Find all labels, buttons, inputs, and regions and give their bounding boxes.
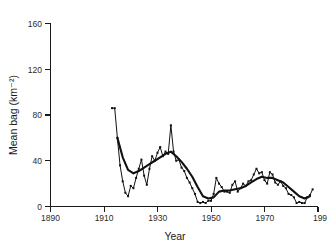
data-point-marker <box>205 202 207 204</box>
data-point-marker <box>282 185 284 187</box>
data-point-marker <box>165 151 167 153</box>
data-point-marker <box>301 202 303 204</box>
series-smoothed-trend <box>117 138 310 199</box>
data-point-marker <box>237 191 239 193</box>
data-point-marker <box>266 183 268 185</box>
data-point-marker <box>159 146 161 148</box>
data-point-marker <box>189 181 191 183</box>
data-point-marker <box>146 184 148 186</box>
data-point-marker <box>114 107 116 109</box>
data-point-marker <box>218 183 220 185</box>
data-point-marker <box>207 200 209 202</box>
data-point-marker <box>304 202 306 204</box>
data-point-marker <box>199 202 201 204</box>
data-point-marker <box>143 175 145 177</box>
y-tick-label-0: 0 <box>37 202 42 212</box>
data-point-marker <box>151 155 153 157</box>
data-point-marker <box>202 201 204 203</box>
data-point-marker <box>122 180 124 182</box>
x-tick-label-1950: 1950 <box>202 213 221 223</box>
y-axis-title: Mean bag (km⁻²) <box>7 75 19 155</box>
data-point-marker <box>127 195 129 197</box>
data-point-marker <box>135 177 137 179</box>
x-axis-title: Year <box>164 230 186 242</box>
x-tick-label-1970: 1970 <box>255 213 274 223</box>
data-point-marker <box>119 164 121 166</box>
data-point-marker <box>234 180 236 182</box>
data-point-marker <box>183 170 185 172</box>
data-point-marker <box>132 187 134 189</box>
y-tick-label-160: 160 <box>28 19 42 29</box>
data-point-marker <box>194 193 196 195</box>
data-point-marker <box>148 168 150 170</box>
data-point-marker <box>191 187 193 189</box>
x-axis-ticks <box>51 207 319 213</box>
x-tick-label-1910: 1910 <box>95 213 114 223</box>
data-point-marker <box>277 184 279 186</box>
chart-plot-area: 160 120 80 40 0 1890 1910 1930 1950 1970… <box>0 0 330 248</box>
data-point-marker <box>298 201 300 203</box>
data-point-marker <box>210 200 212 202</box>
data-point-marker <box>231 184 233 186</box>
y-tick-label-120: 120 <box>28 65 42 75</box>
data-point-marker <box>140 159 142 161</box>
data-point-marker <box>272 173 274 175</box>
data-point-marker <box>258 172 260 174</box>
annual-data-line <box>112 108 313 203</box>
data-point-marker <box>215 177 217 179</box>
data-point-marker <box>288 193 290 195</box>
data-point-marker <box>242 183 244 185</box>
data-point-marker <box>293 196 295 198</box>
data-point-marker <box>247 180 249 182</box>
data-point-marker <box>130 185 132 187</box>
data-point-marker <box>111 107 113 109</box>
data-point-marker <box>274 181 276 183</box>
data-point-marker <box>170 124 172 126</box>
data-point-marker <box>186 177 188 179</box>
data-point-marker <box>221 186 223 188</box>
data-point-marker <box>285 187 287 189</box>
data-point-marker <box>296 202 298 204</box>
data-point-marker <box>197 201 199 203</box>
data-point-marker <box>229 192 231 194</box>
data-point-marker <box>312 188 314 190</box>
x-axis-tick-labels: 1890 1910 1930 1950 1970 199 <box>41 213 327 223</box>
data-point-marker <box>213 193 215 195</box>
y-axis-tick-labels: 160 120 80 40 0 <box>28 19 42 212</box>
data-series-layer <box>111 107 314 204</box>
x-tick-label-1930: 1930 <box>148 213 167 223</box>
data-point-marker <box>157 152 159 154</box>
data-point-marker <box>124 192 126 194</box>
data-point-marker <box>175 160 177 162</box>
y-axis-ticks <box>45 24 51 207</box>
data-point-marker <box>255 168 257 170</box>
data-point-marker <box>269 171 271 173</box>
y-tick-label-80: 80 <box>33 110 43 120</box>
series-annual-mean-bag <box>111 107 314 204</box>
x-tick-label-1990: 199 <box>313 213 327 223</box>
x-tick-label-1890: 1890 <box>41 213 60 223</box>
data-point-marker <box>253 173 255 175</box>
smoothed-trend-line <box>117 138 310 199</box>
data-point-marker <box>264 179 266 181</box>
data-point-marker <box>290 194 292 196</box>
chart-figure: 160 120 80 40 0 1890 1910 1930 1950 1970… <box>0 0 330 248</box>
y-tick-label-40: 40 <box>33 156 43 166</box>
data-point-marker <box>181 167 183 169</box>
data-point-marker <box>261 171 263 173</box>
